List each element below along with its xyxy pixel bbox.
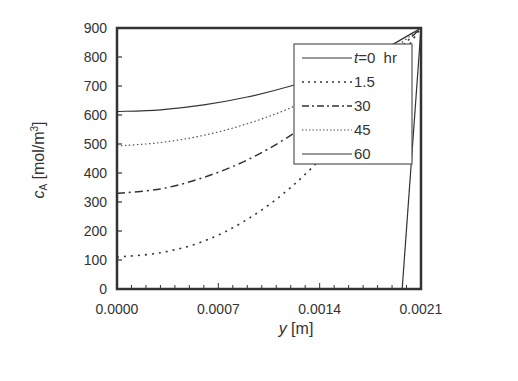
y-tick-labels: 0100200300400500600700800900 [84, 20, 108, 297]
x-tick-label: 0.0014 [298, 301, 341, 317]
x-tick-label: 0.0007 [197, 301, 240, 317]
legend-label-60: 60 [354, 145, 371, 162]
y-tick-label: 100 [84, 252, 108, 268]
y-tick-label: 200 [84, 223, 108, 239]
y-tick-label: 0 [99, 281, 107, 297]
legend-label-30: 30 [354, 97, 371, 114]
y-tick-label: 500 [84, 136, 108, 152]
y-tick-label: 400 [84, 165, 108, 181]
legend-label-45: 45 [354, 121, 371, 138]
x-tick-labels: 0.00000.00070.00140.0021 [96, 301, 443, 317]
y-tick-label: 800 [84, 49, 108, 65]
y-axis-title: cA [mol/m3] [29, 121, 49, 198]
y-tick-label: 300 [84, 194, 108, 210]
legend: t=0 hr 1.5 30 45 60 [294, 44, 412, 164]
legend-label-1.5: 1.5 [354, 73, 375, 90]
legend-label-t0: t=0 hr [354, 49, 397, 66]
line-chart: 0100200300400500600700800900 0.00000.000… [0, 0, 518, 381]
x-tick-label: 0.0000 [96, 301, 139, 317]
y-tick-label: 600 [84, 107, 108, 123]
y-tick-label: 700 [84, 78, 108, 94]
y-tick-label: 900 [84, 20, 108, 36]
x-axis-title: y [m] [278, 320, 314, 337]
x-tick-label: 0.0021 [400, 301, 443, 317]
